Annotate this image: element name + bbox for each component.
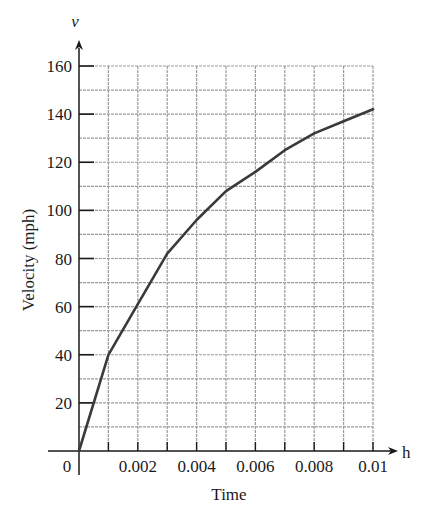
y-tick-label: 40 xyxy=(55,346,72,365)
y-tick-label: 160 xyxy=(47,57,73,76)
velocity-time-chart: 204060801001201401600.0020.0040.0060.008… xyxy=(0,0,435,528)
y-axis-title: Velocity (mph) xyxy=(19,209,38,311)
chart-ticks: 204060801001201401600.0020.0040.0060.008… xyxy=(47,57,388,476)
y-axis-variable: v xyxy=(71,12,79,31)
chart-grid xyxy=(79,66,373,451)
y-tick-label: 100 xyxy=(47,201,73,220)
y-tick-label: 140 xyxy=(47,105,73,124)
x-tick-label: 0.004 xyxy=(177,457,216,476)
y-tick-label: 60 xyxy=(55,298,72,317)
x-tick-label: 0.01 xyxy=(358,457,388,476)
y-tick-label: 80 xyxy=(55,250,72,269)
y-tick-label: 20 xyxy=(55,394,72,413)
origin-label: 0 xyxy=(63,457,72,476)
x-tick-label: 0.008 xyxy=(295,457,333,476)
x-tick-label: 0.002 xyxy=(119,457,157,476)
y-tick-label: 120 xyxy=(47,153,73,172)
x-axis-title: Time xyxy=(211,485,246,504)
chart-axes xyxy=(48,40,398,475)
x-axis-variable: h xyxy=(402,443,411,462)
x-tick-label: 0.006 xyxy=(236,457,274,476)
